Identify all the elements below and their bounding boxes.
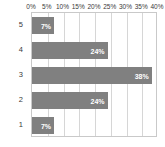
bar-row: 7%: [32, 13, 156, 38]
bar: 38%: [32, 67, 152, 84]
y-tick-label: 1: [19, 112, 23, 137]
bar-row: 24%: [32, 38, 156, 63]
bar-value-label: 7%: [41, 22, 51, 29]
bar-row: 38%: [32, 63, 156, 88]
y-tick-label: 5: [19, 12, 23, 37]
bar: 24%: [32, 42, 108, 59]
x-tick-label: 10%: [56, 1, 69, 12]
y-tick-label: 3: [19, 62, 23, 87]
horizontal-bar-chart: 0%5%10%15%20%25%30%35%40% 54321 7%24%38%…: [0, 0, 165, 147]
bar-row: 7%: [32, 113, 156, 138]
bars-layer: 7%24%38%24%7%: [32, 13, 156, 136]
y-tick-label: 4: [19, 37, 23, 62]
y-tick-label: 2: [19, 87, 23, 112]
bar-row: 24%: [32, 88, 156, 113]
x-tick-label: 40%: [150, 1, 163, 12]
x-tick-label: 35%: [135, 1, 148, 12]
bar-value-label: 38%: [135, 72, 149, 79]
x-tick-label: 0%: [26, 1, 35, 12]
bar: 7%: [32, 117, 54, 134]
x-tick-label: 30%: [119, 1, 132, 12]
x-tick-label: 20%: [87, 1, 100, 12]
bar: 7%: [32, 17, 54, 34]
y-axis-tick-labels: 54321: [0, 12, 28, 137]
x-tick-label: 25%: [103, 1, 116, 12]
x-axis-tick-labels: 0%5%10%15%20%25%30%35%40%: [31, 1, 157, 12]
bar-value-label: 24%: [91, 97, 105, 104]
bar-value-label: 7%: [41, 122, 51, 129]
plot-area: 7%24%38%24%7%: [31, 12, 157, 137]
x-tick-label: 15%: [72, 1, 85, 12]
x-tick-label: 5%: [42, 1, 51, 12]
bar: 24%: [32, 92, 108, 109]
bar-value-label: 24%: [91, 47, 105, 54]
